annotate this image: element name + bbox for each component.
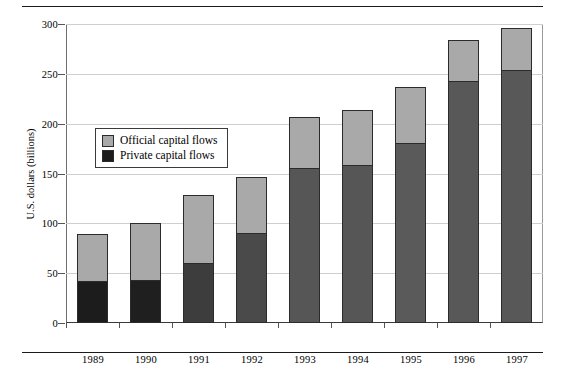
figure-container: 050100150200250300 U.S. dollars (billion… [0, 0, 565, 367]
x-axis-tick [384, 323, 385, 328]
y-axis-tick-label: 250 [42, 68, 58, 79]
x-axis-tick [437, 323, 438, 328]
y-axis-tick [58, 273, 65, 274]
bar-1989 [77, 234, 108, 323]
x-axis-tick [66, 323, 67, 328]
bar-segment-private-1993 [289, 168, 320, 323]
y-axis-tick-label: 200 [42, 118, 58, 129]
gridline [66, 24, 543, 25]
x-axis-label-1994: 1994 [347, 354, 369, 365]
legend-item-private: Private capital flows [102, 148, 218, 163]
x-axis-tick [119, 323, 120, 328]
y-axis-tick-label: 300 [42, 19, 58, 30]
x-axis-label-1993: 1993 [294, 354, 316, 365]
bar-segment-official-1992 [236, 177, 267, 234]
chart-legend: Official capital flows Private capital f… [95, 128, 228, 168]
bar-1992 [236, 177, 267, 323]
y-axis-tick-label: 100 [42, 218, 58, 229]
legend-item-official: Official capital flows [102, 133, 218, 148]
x-axis-tick [331, 323, 332, 328]
x-axis-label-1991: 1991 [188, 354, 210, 365]
legend-swatch-official-icon [102, 135, 114, 147]
bar-1993 [289, 117, 320, 323]
bar-segment-private-1997 [501, 70, 532, 323]
x-axis-label-1989: 1989 [82, 354, 104, 365]
x-axis-label-1990: 1990 [135, 354, 157, 365]
y-axis-tick [58, 223, 65, 224]
y-axis-tick [58, 174, 65, 175]
bar-1991 [183, 195, 214, 323]
bar-1996 [448, 40, 479, 323]
y-axis-tick-label: 50 [47, 268, 58, 279]
legend-label-official: Official capital flows [120, 135, 218, 147]
y-axis-tick [58, 74, 65, 75]
y-axis-tick [58, 323, 65, 324]
y-axis-title: U.S. dollars (billions) [25, 129, 36, 220]
bar-segment-private-1992 [236, 233, 267, 323]
legend-swatch-private-icon [102, 150, 114, 162]
top-horizontal-rule [22, 6, 543, 7]
bar-segment-private-1994 [342, 165, 373, 323]
y-axis-tick [58, 124, 65, 125]
bar-segment-official-1990 [130, 223, 161, 281]
bar-segment-private-1995 [395, 143, 426, 323]
bar-1994 [342, 110, 373, 323]
bar-segment-official-1997 [501, 28, 532, 71]
bar-segment-private-1990 [130, 280, 161, 323]
bar-segment-private-1996 [448, 81, 479, 323]
x-axis-tick [225, 323, 226, 328]
x-axis-tick [172, 323, 173, 328]
x-axis-tick [278, 323, 279, 328]
x-axis-tick [490, 323, 491, 328]
bar-1995 [395, 87, 426, 323]
legend-label-private: Private capital flows [120, 150, 215, 162]
y-axis-tick [58, 24, 65, 25]
bar-segment-official-1996 [448, 40, 479, 82]
bar-1990 [130, 223, 161, 323]
bar-segment-official-1989 [77, 234, 108, 282]
bar-1997 [501, 28, 532, 323]
x-axis-label-1992: 1992 [241, 354, 263, 365]
plot-area: U.S. dollars (billions) 1989199019911992… [66, 24, 543, 323]
bar-segment-official-1994 [342, 110, 373, 166]
x-axis-label-1996: 1996 [453, 354, 475, 365]
bar-segment-official-1993 [289, 117, 320, 169]
x-axis-label-1997: 1997 [506, 354, 528, 365]
y-axis-tick-label: 150 [42, 168, 58, 179]
bar-segment-private-1991 [183, 263, 214, 323]
bar-segment-official-1991 [183, 195, 214, 264]
bar-segment-official-1995 [395, 87, 426, 144]
bar-segment-private-1989 [77, 281, 108, 323]
bottom-horizontal-rule [22, 352, 543, 353]
x-axis-label-1995: 1995 [400, 354, 422, 365]
